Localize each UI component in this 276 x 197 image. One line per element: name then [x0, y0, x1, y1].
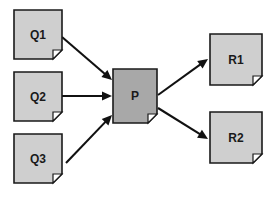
edge-line	[66, 121, 106, 163]
folded-corner-icon	[253, 154, 262, 163]
node-q3[interactable]: Q3	[14, 134, 62, 183]
node-q2[interactable]: Q2	[14, 72, 62, 121]
edge-line	[158, 64, 201, 95]
node-label-q3: Q3	[30, 152, 46, 166]
node-label-p: P	[131, 89, 139, 103]
arrowhead-icon	[197, 59, 208, 69]
edge-p-to-r1	[158, 59, 208, 95]
edge-line	[158, 108, 201, 135]
edge-q2-to-p	[62, 91, 112, 100]
nodes-layer: Q1Q2Q3PR1R2	[14, 10, 262, 183]
edge-q3-to-p	[66, 115, 112, 163]
edge-q1-to-p	[62, 37, 112, 80]
node-label-q1: Q1	[30, 28, 46, 42]
node-p[interactable]: P	[113, 69, 157, 123]
folded-corner-icon	[53, 112, 62, 121]
folded-corner-icon	[53, 174, 62, 183]
edge-p-to-r2	[158, 108, 208, 139]
node-r1[interactable]: R1	[210, 34, 262, 85]
folded-corner-icon	[253, 76, 262, 85]
diagram-canvas: Q1Q2Q3PR1R2	[0, 0, 276, 197]
node-label-r2: R2	[228, 131, 244, 145]
folded-corner-icon	[148, 114, 157, 123]
node-q1[interactable]: Q1	[14, 10, 62, 59]
node-label-r1: R1	[228, 53, 244, 67]
folded-corner-icon	[53, 50, 62, 59]
node-r2[interactable]: R2	[210, 112, 262, 163]
node-label-q2: Q2	[30, 90, 46, 104]
edge-line	[62, 37, 106, 74]
diagram-svg: Q1Q2Q3PR1R2	[0, 0, 276, 197]
arrowhead-icon	[102, 91, 112, 100]
